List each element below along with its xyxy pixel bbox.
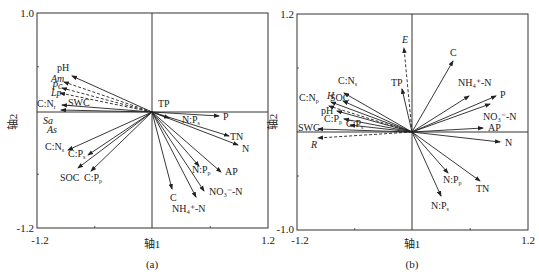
variable-arrow: [91, 112, 152, 171]
variable-arrow: [412, 61, 453, 132]
variable-label: C:Pp: [84, 172, 102, 184]
variable-arrow: [402, 89, 412, 132]
variable-label: pH: [57, 62, 69, 73]
variable-label: C:Ps: [68, 148, 86, 160]
variable-label: E: [401, 34, 408, 45]
variable-label: C: [170, 192, 177, 203]
variable-label: N:Ps: [431, 200, 450, 212]
variable-arrow: [88, 112, 152, 155]
variable-label: C:Ps: [346, 118, 364, 130]
species-arrow: [404, 48, 412, 132]
variable-label: C:Ns: [338, 75, 358, 87]
variable-label: C:Np: [299, 92, 319, 104]
panel-b: CTPNH₄⁺-NPNO₃⁻-NAPNN:PpTNN:PsC:NsSOCC:Np…: [266, 8, 535, 271]
y-max-tick: 1.2: [280, 8, 294, 20]
variable-label: SWC: [68, 97, 90, 108]
x-min-tick: -1.2: [291, 234, 308, 246]
variable-arrow: [412, 104, 490, 132]
variable-arrow: [412, 132, 448, 173]
variable-label: H: [326, 90, 335, 101]
variable-arrow: [412, 132, 500, 142]
variable-label: N:Pp: [192, 164, 211, 176]
variable-label: As: [46, 124, 57, 135]
x-max-tick: 1.2: [521, 234, 535, 246]
panel-label: (b): [406, 258, 419, 271]
x-min-tick: -1.2: [31, 234, 48, 246]
variable-label: N: [505, 137, 512, 148]
variable-label: C:Ns: [45, 141, 65, 153]
variable-label: SOC: [60, 172, 80, 183]
variable-label: N: [242, 143, 249, 154]
variable-label: C:Pp: [324, 113, 342, 125]
rda-biplot-figure: pHSWCC:NrTPPN:PsTNNAPN:PpNO₃⁻-NNH₄⁺-NCC:…: [0, 0, 539, 276]
variable-label: Lp: [50, 87, 62, 98]
variable-arrow: [412, 96, 469, 132]
x-axis-label: 轴1: [144, 237, 161, 250]
variable-label: TP: [391, 77, 403, 88]
labels-layer: CTPNH₄⁺-NPNO₃⁻-NAPNN:PpTNN:PsC:NsSOCC:Np…: [298, 34, 516, 212]
x-axis-label: 轴1: [404, 237, 421, 250]
variable-label: P: [223, 111, 229, 122]
x-max-tick: 1.2: [261, 234, 275, 246]
variable-label: N:Pp: [443, 174, 462, 186]
variable-label: P: [500, 89, 506, 100]
variable-label: SWC: [298, 122, 320, 133]
y-axis-label: 轴2: [266, 114, 279, 131]
y-max-tick: 1.0: [20, 7, 34, 19]
variable-label: C: [450, 47, 457, 58]
y-axis-label: 轴2: [6, 114, 19, 131]
variable-label: C:Nr: [37, 98, 56, 110]
y-min-tick: -1.2: [17, 222, 34, 234]
variable-label: NO₃⁻-N: [209, 186, 242, 197]
variable-label: NH₄⁺-N: [458, 77, 491, 88]
variable-label: NH₄⁺-N: [172, 203, 205, 214]
variable-label: AP: [225, 166, 238, 177]
variable-label: R: [310, 139, 317, 150]
variable-label: N:Ps: [182, 114, 201, 126]
labels-layer: pHSWCC:NrTPPN:PsTNNAPN:PpNO₃⁻-NNH₄⁺-NCC:…: [37, 62, 249, 214]
panel-label: (a): [146, 258, 159, 271]
variable-label: TP: [158, 98, 170, 109]
variable-arrow: [412, 132, 441, 196]
variable-label: NO₃⁻-N: [483, 111, 516, 122]
species-arrow: [318, 132, 412, 138]
variable-label: AP: [488, 122, 501, 133]
variable-label: TN: [476, 183, 489, 194]
panel-a: pHSWCC:NrTPPN:PsTNNAPN:PpNO₃⁻-NNH₄⁺-NCC:…: [6, 7, 275, 271]
variable-label: TN: [230, 131, 243, 142]
